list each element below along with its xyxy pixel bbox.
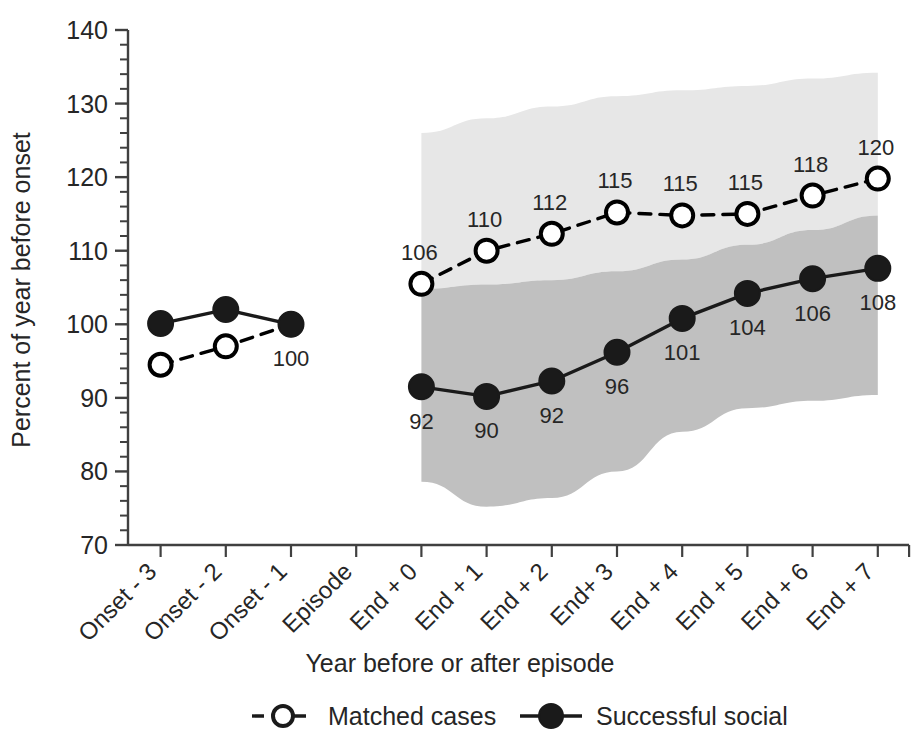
data-label: 112 [532, 190, 567, 215]
data-point-marker [670, 306, 695, 331]
x-axis-title: Year before or after episode [305, 649, 614, 677]
y-tick-label: 140 [66, 16, 108, 44]
data-label: 100 [273, 346, 310, 371]
legend-marker [539, 704, 563, 728]
line-chart-canvas: 708090100110120130140 Onset - 3Onset - 2… [0, 0, 921, 752]
data-point-marker [215, 335, 237, 357]
data-point-marker [867, 168, 889, 190]
x-category-label: End + 2 [475, 557, 553, 635]
data-label: 106 [401, 240, 438, 265]
data-label: 115 [663, 171, 698, 196]
data-point-marker [410, 273, 432, 295]
y-tick-label: 130 [66, 90, 108, 118]
data-label: 110 [467, 207, 502, 232]
data-label: 101 [664, 340, 701, 365]
y-tick-label: 90 [80, 384, 108, 412]
data-point-marker [802, 185, 824, 207]
y-axis-title: Percent of year before onset [7, 132, 35, 448]
y-tick-label: 80 [80, 457, 108, 485]
x-category-label: Episode [277, 557, 357, 637]
y-axis-tick-labels: 708090100110120130140 [66, 16, 108, 559]
x-axis-category-labels: Onset - 3Onset - 2Onset - 1EpisodeEnd + … [73, 557, 879, 646]
chart-figure: 708090100110120130140 Onset - 3Onset - 2… [0, 0, 921, 752]
y-tick-label: 70 [80, 531, 108, 559]
legend-label: Successful social [596, 702, 788, 730]
data-label: 96 [605, 374, 629, 399]
x-category-label: End + 5 [670, 557, 748, 635]
data-point-marker [800, 266, 825, 291]
data-point-marker [606, 201, 628, 223]
data-point-marker [409, 374, 434, 399]
data-label: 108 [859, 290, 896, 315]
y-tick-label: 120 [66, 163, 108, 191]
x-category-label: End + 6 [735, 557, 813, 635]
data-point-marker [539, 368, 564, 393]
x-category-label: End+ 3 [545, 557, 618, 630]
data-point-marker [148, 311, 173, 336]
x-category-label: End + 1 [409, 557, 487, 635]
data-point-marker [671, 204, 693, 226]
data-point-marker [279, 312, 304, 337]
x-category-label: End + 0 [344, 557, 422, 635]
data-label: 106 [794, 301, 831, 326]
x-category-label: End + 7 [801, 557, 879, 635]
legend-marker [273, 706, 293, 726]
data-point-marker [605, 340, 630, 365]
data-point-marker [541, 223, 563, 245]
data-point-marker [736, 203, 758, 225]
data-label: 115 [728, 170, 763, 195]
legend-label: Matched cases [328, 702, 496, 730]
data-label: 92 [409, 409, 433, 434]
chart-legend: Matched casesSuccessful social [252, 702, 788, 730]
y-tick-label: 110 [68, 237, 108, 265]
data-point-marker [213, 297, 238, 322]
data-label: 104 [729, 315, 766, 340]
data-point-marker [150, 354, 172, 376]
data-point-marker [735, 281, 760, 306]
x-category-label: End + 4 [605, 557, 683, 635]
y-tick-label: 100 [66, 310, 108, 338]
data-label: 115 [597, 168, 632, 193]
data-label: 92 [540, 403, 564, 428]
data-label: 90 [474, 418, 498, 443]
data-label: 118 [793, 152, 828, 177]
data-point-marker [865, 256, 890, 281]
x-axis-ticks [161, 545, 909, 557]
data-label: 120 [857, 135, 894, 160]
data-point-marker [476, 240, 498, 262]
data-point-marker [474, 384, 499, 409]
y-axis-major-ticks [115, 30, 128, 545]
